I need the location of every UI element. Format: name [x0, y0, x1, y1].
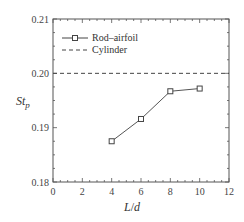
square-marker-icon — [73, 36, 78, 41]
legend-label-rod-airfoil: Rod–airfoil — [92, 32, 138, 43]
x-tick-label: 8 — [168, 186, 173, 197]
strouhal-chart: 024681012 0.180.190.200.21 Rod–airfoil C… — [0, 0, 244, 222]
x-tick-label: 10 — [195, 186, 205, 197]
y-axis-label: Stp — [16, 94, 30, 110]
x-tick-label: 12 — [224, 186, 234, 197]
plot-frame — [53, 19, 229, 182]
square-marker-icon — [109, 139, 114, 144]
square-marker-icon — [197, 86, 202, 91]
series-layer — [53, 73, 229, 143]
x-tick-labels: 024681012 — [51, 186, 235, 197]
square-marker-icon — [168, 89, 173, 94]
x-tick-label: 4 — [109, 186, 114, 197]
y-tick-label: 0.21 — [32, 14, 50, 25]
y-tick-labels: 0.180.190.200.21 — [32, 14, 50, 188]
y-tick-label: 0.18 — [32, 177, 50, 188]
y-tick-label: 0.19 — [32, 122, 50, 133]
legend-label-cylinder: Cylinder — [92, 44, 128, 55]
x-tick-label: 0 — [51, 186, 56, 197]
square-marker-icon — [139, 116, 144, 121]
rod-airfoil-line — [112, 89, 200, 142]
x-tick-label: 2 — [80, 186, 85, 197]
axis-ticks — [53, 19, 229, 182]
x-axis-label: L/d — [123, 200, 141, 214]
y-tick-label: 0.20 — [32, 68, 50, 79]
x-tick-label: 6 — [139, 186, 144, 197]
legend: Rod–airfoil Cylinder — [62, 32, 138, 55]
